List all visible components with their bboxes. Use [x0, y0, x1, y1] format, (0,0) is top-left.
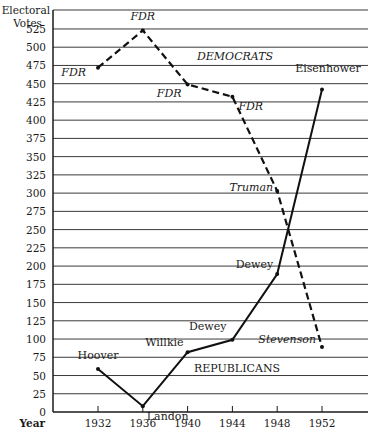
y-tick-label: 475: [26, 59, 46, 71]
point-label: Hoover: [78, 349, 120, 362]
democrats-label: DEMOCRATS: [196, 50, 274, 63]
data-point: [230, 95, 234, 99]
point-label: Willkie: [145, 336, 183, 349]
y-tick-label: 275: [26, 205, 46, 217]
y-tick-label: 25: [33, 388, 46, 400]
point-label: FDR: [60, 66, 86, 79]
y-tick-label: 325: [26, 169, 46, 181]
data-point: [230, 338, 234, 342]
y-tick-label: 175: [26, 278, 46, 290]
y-tick-label: 150: [26, 297, 46, 309]
y-tick-label: 400: [26, 114, 46, 126]
point-label: Stevenson: [258, 333, 316, 346]
point-label: Truman: [229, 181, 273, 194]
point-label: FDR: [237, 100, 263, 113]
x-tick-label: 1944: [219, 417, 246, 429]
x-axis-title: Year: [18, 417, 45, 429]
data-point: [275, 189, 279, 193]
y-tick-label: 425: [26, 96, 46, 108]
x-tick-label: 1952: [309, 417, 336, 429]
data-point: [141, 404, 145, 408]
data-point: [96, 66, 100, 70]
y-tick-label: 450: [26, 78, 46, 90]
y-tick-label: 350: [26, 151, 46, 163]
x-axis-tick-labels: 193219361940194419481952: [85, 417, 336, 429]
y-tick-label: 300: [26, 187, 46, 199]
democrats-line: [98, 30, 322, 347]
data-point: [275, 272, 279, 276]
y-tick-label: 50: [33, 370, 46, 382]
y-tick-label: 125: [26, 315, 46, 327]
point-label: FDR: [129, 10, 155, 23]
point-label: Dewey: [236, 258, 274, 271]
y-tick-label: 250: [26, 224, 46, 236]
data-series: [96, 28, 324, 408]
x-tick-label: 1932: [85, 417, 112, 429]
data-point: [320, 345, 324, 349]
point-label: Eisenhower: [295, 62, 361, 75]
y-tick-label: 225: [26, 242, 46, 254]
y-axis-tick-labels: 0255075100125150175200225250275300325350…: [26, 23, 46, 418]
y-tick-label: 375: [26, 132, 46, 144]
data-point: [186, 350, 190, 354]
y-tick-label: 200: [26, 260, 46, 272]
y-axis-title-line2: Votes: [12, 17, 42, 29]
data-point: [186, 82, 190, 86]
data-point: [320, 88, 324, 92]
point-label: Dewey: [189, 320, 227, 333]
data-point: [141, 28, 145, 32]
x-tick-label: 1948: [264, 417, 291, 429]
y-tick-label: 75: [33, 351, 46, 363]
y-tick-label: 500: [26, 41, 46, 53]
point-label: Landon: [147, 410, 189, 423]
y-tick-label: 100: [26, 333, 46, 345]
point-label: FDR: [156, 87, 182, 100]
republicans-label: REPUBLICANS: [194, 362, 280, 375]
electoral-votes-chart: 0255075100125150175200225250275300325350…: [0, 0, 368, 430]
y-axis-title-line1: Electoral: [2, 4, 51, 16]
data-point: [96, 367, 100, 371]
